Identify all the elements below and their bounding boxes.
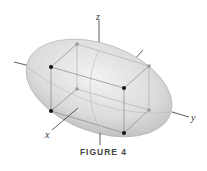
y-axis	[172, 112, 189, 117]
y-axis-label: y	[190, 112, 196, 123]
x-axis-label: x	[44, 129, 50, 140]
ellipsoid-diagram: z x y	[0, 0, 207, 145]
figure-caption: FIGURE 4	[0, 147, 207, 157]
z-axis-label: z	[95, 11, 100, 22]
